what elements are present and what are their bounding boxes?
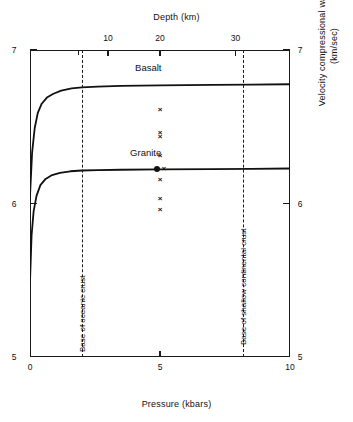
y-axis-tick-label-right: 7	[298, 45, 303, 55]
series-label-granite: Granite	[130, 147, 161, 158]
bottom-axis-title: Pressure (kbars)	[0, 399, 353, 409]
right-axis-title: Velocity compressional wave (km/sec)	[316, 0, 340, 131]
depth-axis-tick	[159, 50, 160, 56]
top-axis-title: Depth (km)	[0, 12, 353, 22]
data-point-marker-x: ×	[158, 106, 163, 114]
depth-axis-minor-tick	[235, 50, 236, 55]
crust-boundary-label: Base of oceanic crust	[78, 276, 87, 352]
curve-granite	[30, 169, 290, 282]
y-axis-tick-right	[283, 203, 290, 204]
data-point-marker-x: ×	[158, 176, 163, 184]
y-axis-tick-left	[30, 49, 37, 50]
velocity-pressure-chart: Depth (km) Pressure (kbars) Velocity com…	[0, 0, 353, 422]
x-axis-tick-label: 0	[28, 362, 33, 372]
data-point-marker-dot	[154, 166, 160, 172]
right-axis-title-line2: (km/sec)	[329, 28, 339, 64]
plot-area: BasaltGranite××××××××	[30, 50, 290, 357]
y-axis-tick-label-left: 7	[12, 45, 17, 55]
depth-axis-tick-label: 10	[103, 33, 112, 43]
y-axis-tick-left	[30, 203, 37, 204]
data-point-marker-x: ×	[158, 152, 163, 160]
right-axis-title-line1: Velocity compressional wave	[317, 0, 327, 106]
series-label-basalt: Basalt	[135, 62, 161, 73]
x-axis-tick	[159, 351, 160, 357]
y-axis-tick-label-right: 6	[298, 199, 303, 209]
depth-axis-tick-label: 30	[231, 33, 240, 43]
crust-boundary-label: Base of shallow continental crust	[239, 228, 248, 345]
y-axis-tick-label-right: 5	[298, 352, 303, 362]
depth-axis-tick-label: 20	[155, 33, 164, 43]
data-point-marker-x: ×	[158, 133, 163, 141]
data-point-marker-x: ×	[158, 206, 163, 214]
data-point-marker-x: ×	[158, 195, 163, 203]
curve-layer	[30, 50, 290, 357]
y-axis-tick-right	[283, 49, 290, 50]
depth-axis-tick	[107, 50, 108, 56]
y-axis-tick-label-left: 5	[12, 352, 17, 362]
depth-axis-minor-tick	[78, 50, 79, 55]
data-point-marker-x: ×	[162, 165, 167, 173]
y-axis-tick-label-left: 6	[12, 199, 17, 209]
x-axis-tick-label: 10	[285, 362, 294, 372]
x-axis-tick-label: 5	[158, 362, 163, 372]
